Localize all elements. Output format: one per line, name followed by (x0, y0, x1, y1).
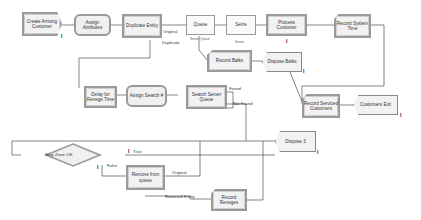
dispose3-module[interactable]: Dispose 3 (275, 131, 316, 152)
label-false: False (107, 163, 117, 168)
module-label: Duplicate Entity (126, 23, 158, 28)
stay-zone-label: Stay Zone OK (45, 152, 73, 157)
record-balks-module[interactable]: Record Balks (207, 50, 252, 72)
seize-module[interactable]: Seize (226, 15, 256, 35)
module-label: Customers Exit (360, 102, 391, 107)
module-label: Remove from queue (128, 172, 163, 182)
label-original: Original (163, 29, 177, 34)
label-original-2: Original (172, 170, 186, 175)
module-label: Create Arriving Customer (24, 19, 60, 29)
module-label: Record Serviced Customers (304, 101, 338, 111)
marker: I (400, 112, 401, 118)
module-label: Seize (235, 22, 247, 27)
queue-sublabel: Server Queue (190, 37, 210, 41)
remove-from-queue-module[interactable]: Remove from queue (126, 165, 165, 190)
dispose-balks-module[interactable]: Dispose Balks (262, 52, 302, 72)
module-label: Assign Search # (130, 93, 163, 98)
flowchart-canvas: Create Arriving Customer I Assign Attrib… (0, 0, 421, 220)
label-not-found: Not Found (233, 101, 253, 106)
module-label: Delay for Renege Time (86, 92, 115, 102)
assign-search-module[interactable]: Assign Search # (126, 85, 167, 107)
assign-attributes-module[interactable]: Assign Attributes (74, 14, 111, 36)
marker: I (303, 68, 304, 74)
record-reneges-module[interactable]: Record Reneges (211, 189, 247, 211)
module-label: Process Customer (268, 20, 305, 30)
marker: I (61, 33, 62, 39)
process-customer-module[interactable]: Process Customer (266, 14, 307, 36)
label-true: True (133, 149, 141, 154)
label-found: Found (229, 86, 241, 91)
marker: I (97, 164, 98, 170)
label-duplicate: Duplicate (162, 40, 179, 45)
create-module[interactable]: Create Arriving Customer (22, 12, 62, 36)
record-system-time-module[interactable]: Record System Time (334, 14, 371, 38)
module-label: Record System Time (336, 21, 369, 31)
marker: I (286, 38, 287, 44)
label-removed-entity: Removed Entity (165, 194, 195, 199)
module-label: Assign Attributes (76, 20, 109, 30)
duplicate-entity-module[interactable]: Duplicate Entity (122, 14, 162, 38)
module-label: Dispose 3 (285, 139, 305, 144)
seize-sublabel: Server (235, 40, 244, 44)
record-serviced-module[interactable]: Record Serviced Customers (302, 94, 340, 118)
customers-exit-module[interactable]: Customers Exit (353, 95, 398, 115)
module-label: Record Balks (216, 58, 243, 63)
search-server-queue-module[interactable]: Search Server Queue (186, 85, 227, 109)
module-label: Dispose Balks (267, 59, 296, 64)
marker: I (317, 149, 318, 155)
module-label: Search Server Queue (188, 92, 225, 102)
marker: I (128, 148, 129, 154)
module-label: Record Reneges (213, 195, 245, 205)
queue-module[interactable]: Queue (186, 15, 215, 35)
delay-renege-module[interactable]: Delay for Renege Time (84, 86, 117, 108)
module-label: Queue (194, 22, 208, 27)
